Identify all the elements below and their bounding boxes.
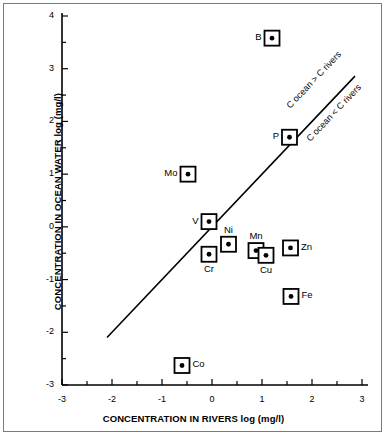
marker-center-dot: [264, 253, 269, 258]
y-tick-label: 2: [18, 115, 54, 125]
point-label-mn: Mn: [248, 230, 264, 241]
x-tick-label: -1: [142, 394, 182, 404]
y-tick-label: -1: [18, 274, 54, 284]
marker-center-dot: [289, 294, 294, 299]
point-label-cu: Cu: [258, 264, 274, 275]
x-tick-label: 1: [242, 394, 282, 404]
data-point-cu[interactable]: [259, 248, 274, 263]
data-point-mo[interactable]: [181, 167, 196, 182]
x-tick-label: -3: [42, 394, 82, 404]
data-point-ni[interactable]: [221, 237, 236, 252]
marker-center-dot: [270, 36, 275, 41]
y-tick-label: 3: [18, 63, 54, 73]
data-point-cr[interactable]: [202, 247, 217, 262]
x-axis-title: CONCENTRATION IN RIVERS log (mg/l): [0, 413, 387, 424]
y-axis-title: CONCENTRATION IN OCEAN WATER log (mg/l): [52, 37, 63, 367]
marker-center-dot: [186, 172, 191, 177]
y-tick-label: 4: [18, 10, 54, 20]
data-point-co[interactable]: [175, 358, 190, 373]
marker-center-dot: [207, 252, 212, 257]
point-label-zn: Zn: [301, 241, 312, 252]
marker-center-dot: [207, 219, 212, 224]
point-label-cr: Cr: [201, 263, 217, 274]
one-to-one-line: [107, 76, 355, 337]
point-label-mo: Mo: [162, 167, 178, 178]
x-tick-label: 0: [192, 394, 232, 404]
point-label-p: P: [269, 130, 279, 141]
marker-center-dot: [287, 135, 292, 140]
data-point-p[interactable]: [282, 130, 297, 145]
y-tick-label: 0: [18, 221, 54, 231]
data-point-zn[interactable]: [283, 240, 298, 255]
x-tick-label: 3: [342, 394, 382, 404]
x-tick-label: 2: [292, 394, 332, 404]
point-label-co: Co: [193, 358, 205, 369]
point-label-b: B: [252, 31, 262, 42]
y-tick-label: 1: [18, 168, 54, 178]
data-point-v[interactable]: [202, 214, 217, 229]
y-tick-label: -2: [18, 326, 54, 336]
y-tick-label: -3: [18, 379, 54, 389]
data-point-fe[interactable]: [284, 289, 299, 304]
marker-center-dot: [288, 246, 293, 251]
figure-container: CONCENTRATION IN RIVERS log (mg/l) CONCE…: [0, 0, 387, 437]
x-tick-label: -2: [92, 394, 132, 404]
data-point-b[interactable]: [265, 31, 280, 46]
marker-center-dot: [226, 242, 231, 247]
point-label-v: V: [189, 215, 199, 226]
marker-center-dot: [180, 363, 185, 368]
point-label-ni: Ni: [221, 224, 237, 235]
point-label-fe: Fe: [302, 289, 313, 300]
